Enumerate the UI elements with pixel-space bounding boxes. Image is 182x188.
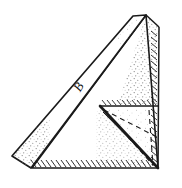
right-vertical-edge [158,27,159,168]
diagram-canvas: B [0,0,182,188]
figure-container: B [0,0,182,188]
